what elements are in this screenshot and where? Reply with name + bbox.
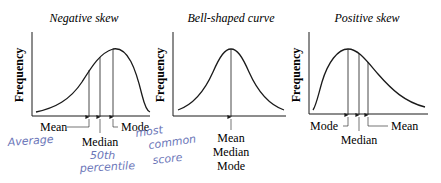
mean-label: Mean	[40, 120, 67, 134]
median-label: Median	[82, 135, 119, 149]
handwritten-score: score	[152, 151, 183, 167]
median-label: Median	[213, 145, 250, 159]
median-label: Median	[341, 133, 378, 147]
handwritten-average: Average	[6, 133, 54, 149]
distribution-curve	[313, 49, 425, 110]
mode-label: Mode	[217, 159, 245, 173]
handwritten-percentile: percentile	[78, 159, 135, 175]
y-axis-label: Frequency	[289, 48, 303, 102]
mean-label: Mean	[391, 119, 418, 133]
negative-skew-panel: Negative skew Frequency Mean Median Mode	[12, 11, 150, 149]
mode-label: Mode	[310, 119, 338, 133]
mean-label: Mean	[217, 131, 244, 145]
distribution-curve	[36, 49, 150, 112]
axes	[32, 32, 150, 116]
handwritten-annotations: Average 50th percentile most common scor…	[6, 123, 197, 175]
bell-curve-title: Bell-shaped curve	[188, 11, 276, 25]
skew-diagram: Negative skew Frequency Mean Median Mode…	[0, 0, 441, 183]
positive-skew-panel: Positive skew Frequency Mode Median Mean	[289, 11, 428, 147]
bell-curve-panel: Bell-shaped curve Frequency Mean Median …	[153, 11, 286, 173]
negative-skew-title: Negative skew	[49, 11, 119, 25]
positive-skew-title: Positive skew	[334, 11, 400, 25]
y-axis-label: Frequency	[12, 48, 26, 102]
y-axis-label: Frequency	[153, 48, 167, 102]
